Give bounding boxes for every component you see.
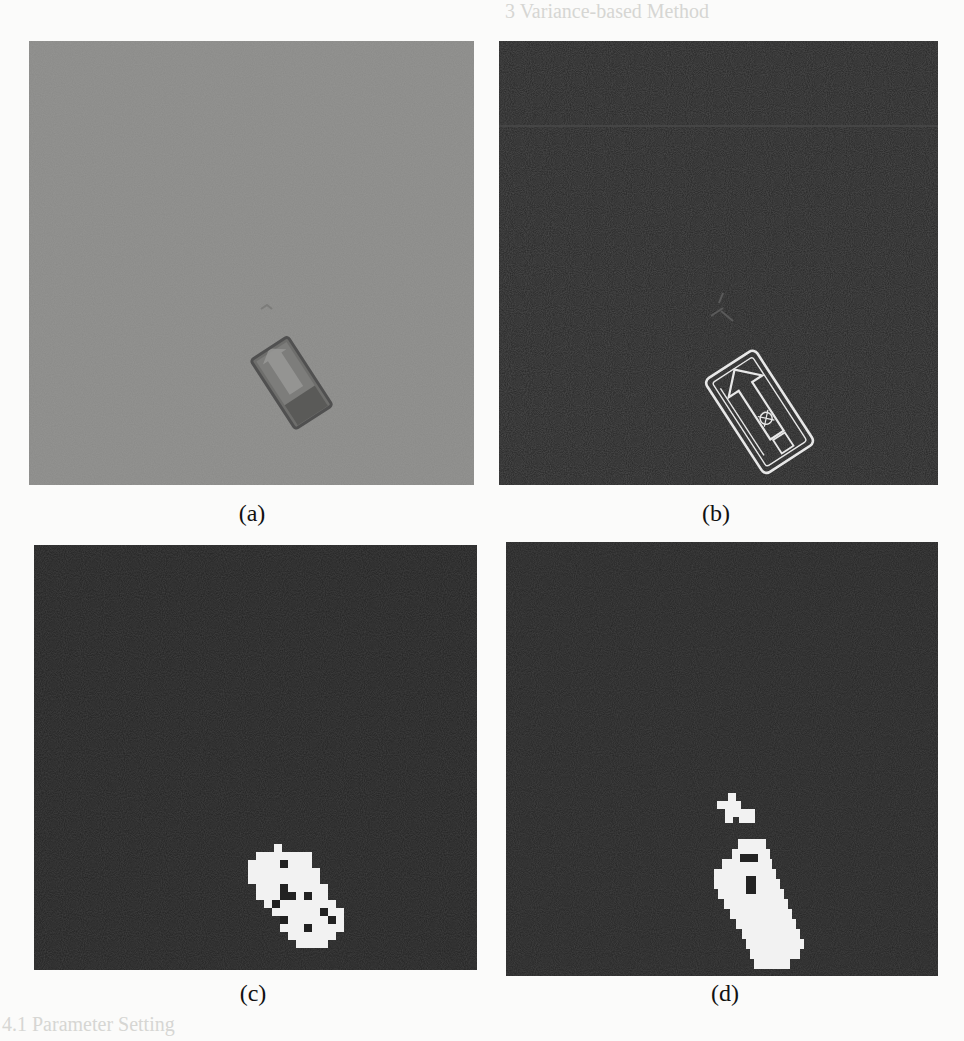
binary-mask-graphic <box>506 542 938 976</box>
background-subheading: 4.1 Parameter Setting <box>2 1013 175 1036</box>
caption-c: (c) <box>213 980 293 1007</box>
edge-map-graphic <box>499 41 938 485</box>
caption-d: (d) <box>685 980 765 1007</box>
original-image-graphic <box>29 41 474 485</box>
panel-c-binary-mask <box>34 545 477 970</box>
panel-a-original-image <box>29 41 474 485</box>
panel-b-edge-map <box>499 41 938 485</box>
background-heading: 3 Variance-based Method <box>505 0 709 23</box>
caption-b: (b) <box>676 500 756 527</box>
caption-a: (a) <box>212 500 292 527</box>
panel-d-binary-mask <box>506 542 938 976</box>
binary-mask-graphic <box>34 545 477 970</box>
